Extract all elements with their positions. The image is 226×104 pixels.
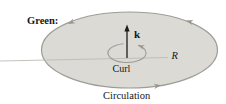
greens-theorem-figure: Green: k Curl R Circulation xyxy=(0,0,226,104)
circulation-label: Circulation xyxy=(103,90,151,101)
curl-label: Curl xyxy=(113,63,131,74)
circulation-curl-diagram: Green: k Curl R Circulation xyxy=(0,0,226,104)
green-heading: Green: xyxy=(27,15,58,26)
k-vector-label: k xyxy=(134,28,141,40)
radius-label: R xyxy=(171,50,179,61)
